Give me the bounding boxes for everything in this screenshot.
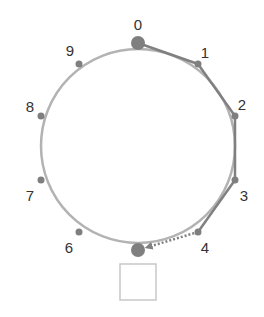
ring-circle: [41, 49, 235, 243]
edge-1-2: [198, 64, 235, 116]
node-4: [195, 229, 202, 236]
node-8: [38, 113, 45, 120]
node-labels: 012346789: [26, 16, 248, 256]
node-3: [232, 177, 239, 184]
node-label-7: 7: [26, 187, 34, 204]
node-label-2: 2: [238, 96, 246, 113]
edge-3-4: [198, 180, 235, 232]
node-2: [232, 113, 239, 120]
node-label-3: 3: [240, 187, 248, 204]
node-0: [131, 36, 145, 50]
edge-4-5: [148, 232, 198, 247]
node-label-4: 4: [201, 239, 209, 256]
node-label-8: 8: [26, 98, 34, 115]
ring-nodes: [38, 36, 239, 257]
node-1: [195, 61, 202, 68]
path-edges: [138, 43, 235, 247]
node-label-6: 6: [65, 239, 73, 256]
node-label-0: 0: [134, 16, 142, 33]
node-label-1: 1: [201, 44, 209, 61]
node-5: [131, 243, 145, 257]
node-9: [76, 61, 83, 68]
node-6: [76, 229, 83, 236]
edge-0-1: [138, 43, 198, 64]
storage-box: [120, 264, 156, 300]
ring-diagram: 012346789: [0, 0, 264, 317]
node-label-9: 9: [66, 42, 74, 59]
node-7: [38, 177, 45, 184]
